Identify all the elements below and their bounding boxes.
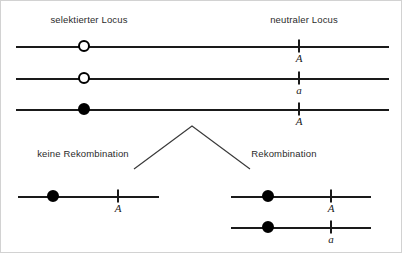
chromosome-line-bottom-right-1	[231, 196, 371, 198]
selected-locus-marker-bottom-right-2	[262, 221, 274, 233]
neutral-locus-tick-bottom-right-1	[330, 190, 332, 203]
neutral-locus-tick-top-3	[298, 103, 300, 116]
neutral-allele-label-top-2: a	[296, 84, 302, 96]
neutral-allele-label-top-3: A	[296, 115, 303, 127]
selected-locus-marker-bottom-right-1	[262, 190, 274, 202]
neutral-locus-tick-top-2	[298, 72, 300, 85]
selected-locus-marker-bottom-left-1	[47, 190, 59, 202]
selected-locus-marker-top-1	[78, 40, 90, 52]
chromosome-line-top-1	[16, 46, 389, 48]
selected-locus-marker-top-2	[78, 72, 90, 84]
neutral-allele-label-bottom-right-2: a	[328, 233, 334, 245]
neutral-allele-label-top-1: A	[296, 52, 303, 64]
branch-connector	[1, 1, 402, 253]
neutral-locus-tick-bottom-left-1	[117, 190, 119, 203]
neutral-locus-tick-top-1	[298, 40, 300, 53]
neutral-allele-label-bottom-right-1: A	[328, 202, 335, 214]
column-header-neutral-locus: neutraler Locus	[270, 14, 338, 25]
branch-label-no-recombination: keine Rekombination	[37, 148, 129, 159]
recombination-diagram: selektierter Locus neutraler Locus A a A…	[0, 0, 402, 253]
chromosome-line-bottom-right-2	[231, 227, 371, 229]
chromosome-line-top-2	[16, 78, 389, 80]
chromosome-line-bottom-left-1	[18, 196, 159, 198]
neutral-locus-tick-bottom-right-2	[330, 221, 332, 234]
selected-locus-marker-top-3	[78, 103, 90, 115]
chromosome-line-top-3	[16, 109, 389, 111]
column-header-selected-locus: selektierter Locus	[50, 14, 127, 25]
branch-label-recombination: Rekombination	[251, 148, 316, 159]
neutral-allele-label-bottom-left-1: A	[115, 202, 122, 214]
